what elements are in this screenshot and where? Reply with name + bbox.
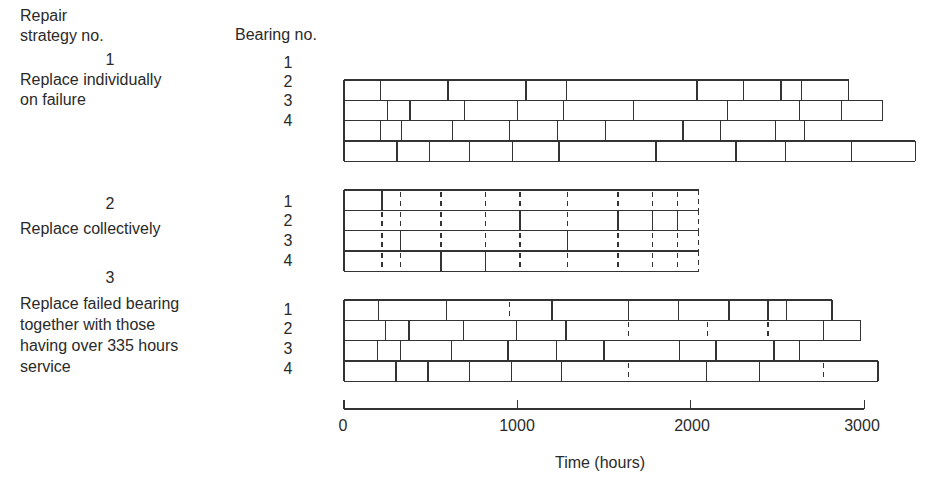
axis-tick-label: 0 [323,416,363,436]
axis-tick-label: 1000 [492,416,542,436]
bearing-timeline-diagram [0,0,947,498]
axis-tick-label: 2000 [667,416,717,436]
axis-tick-label: 3000 [837,416,887,436]
axis-title: Time (hours) [520,453,680,473]
